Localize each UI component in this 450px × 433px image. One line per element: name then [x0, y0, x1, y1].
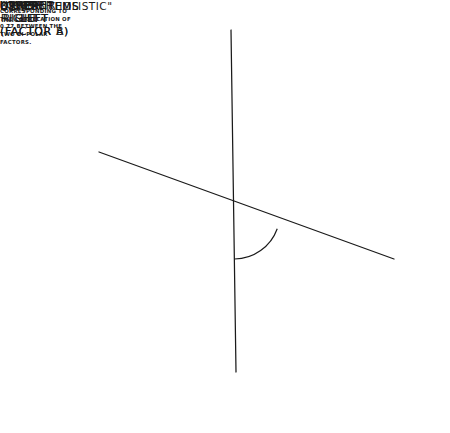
- plot-canvas: [0, 0, 450, 433]
- angle-arc-path: [235, 229, 278, 259]
- bipolar-axis-oblique: [99, 152, 394, 259]
- angle-arc: [235, 229, 278, 259]
- axis-lines: [99, 30, 394, 372]
- angle-explanation-note: is the angle corresponding to the correl…: [0, 0, 78, 47]
- factor-analysis-scatter-figure: UPPER RIGHT LOWER LEFT (FACTOR A) UPPER …: [0, 0, 450, 433]
